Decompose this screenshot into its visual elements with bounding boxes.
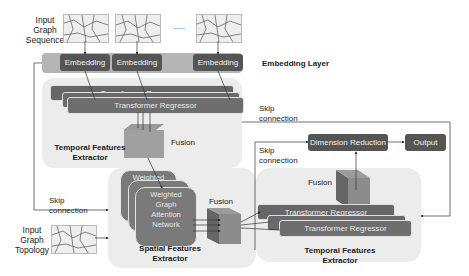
connector-lines [0, 0, 469, 276]
